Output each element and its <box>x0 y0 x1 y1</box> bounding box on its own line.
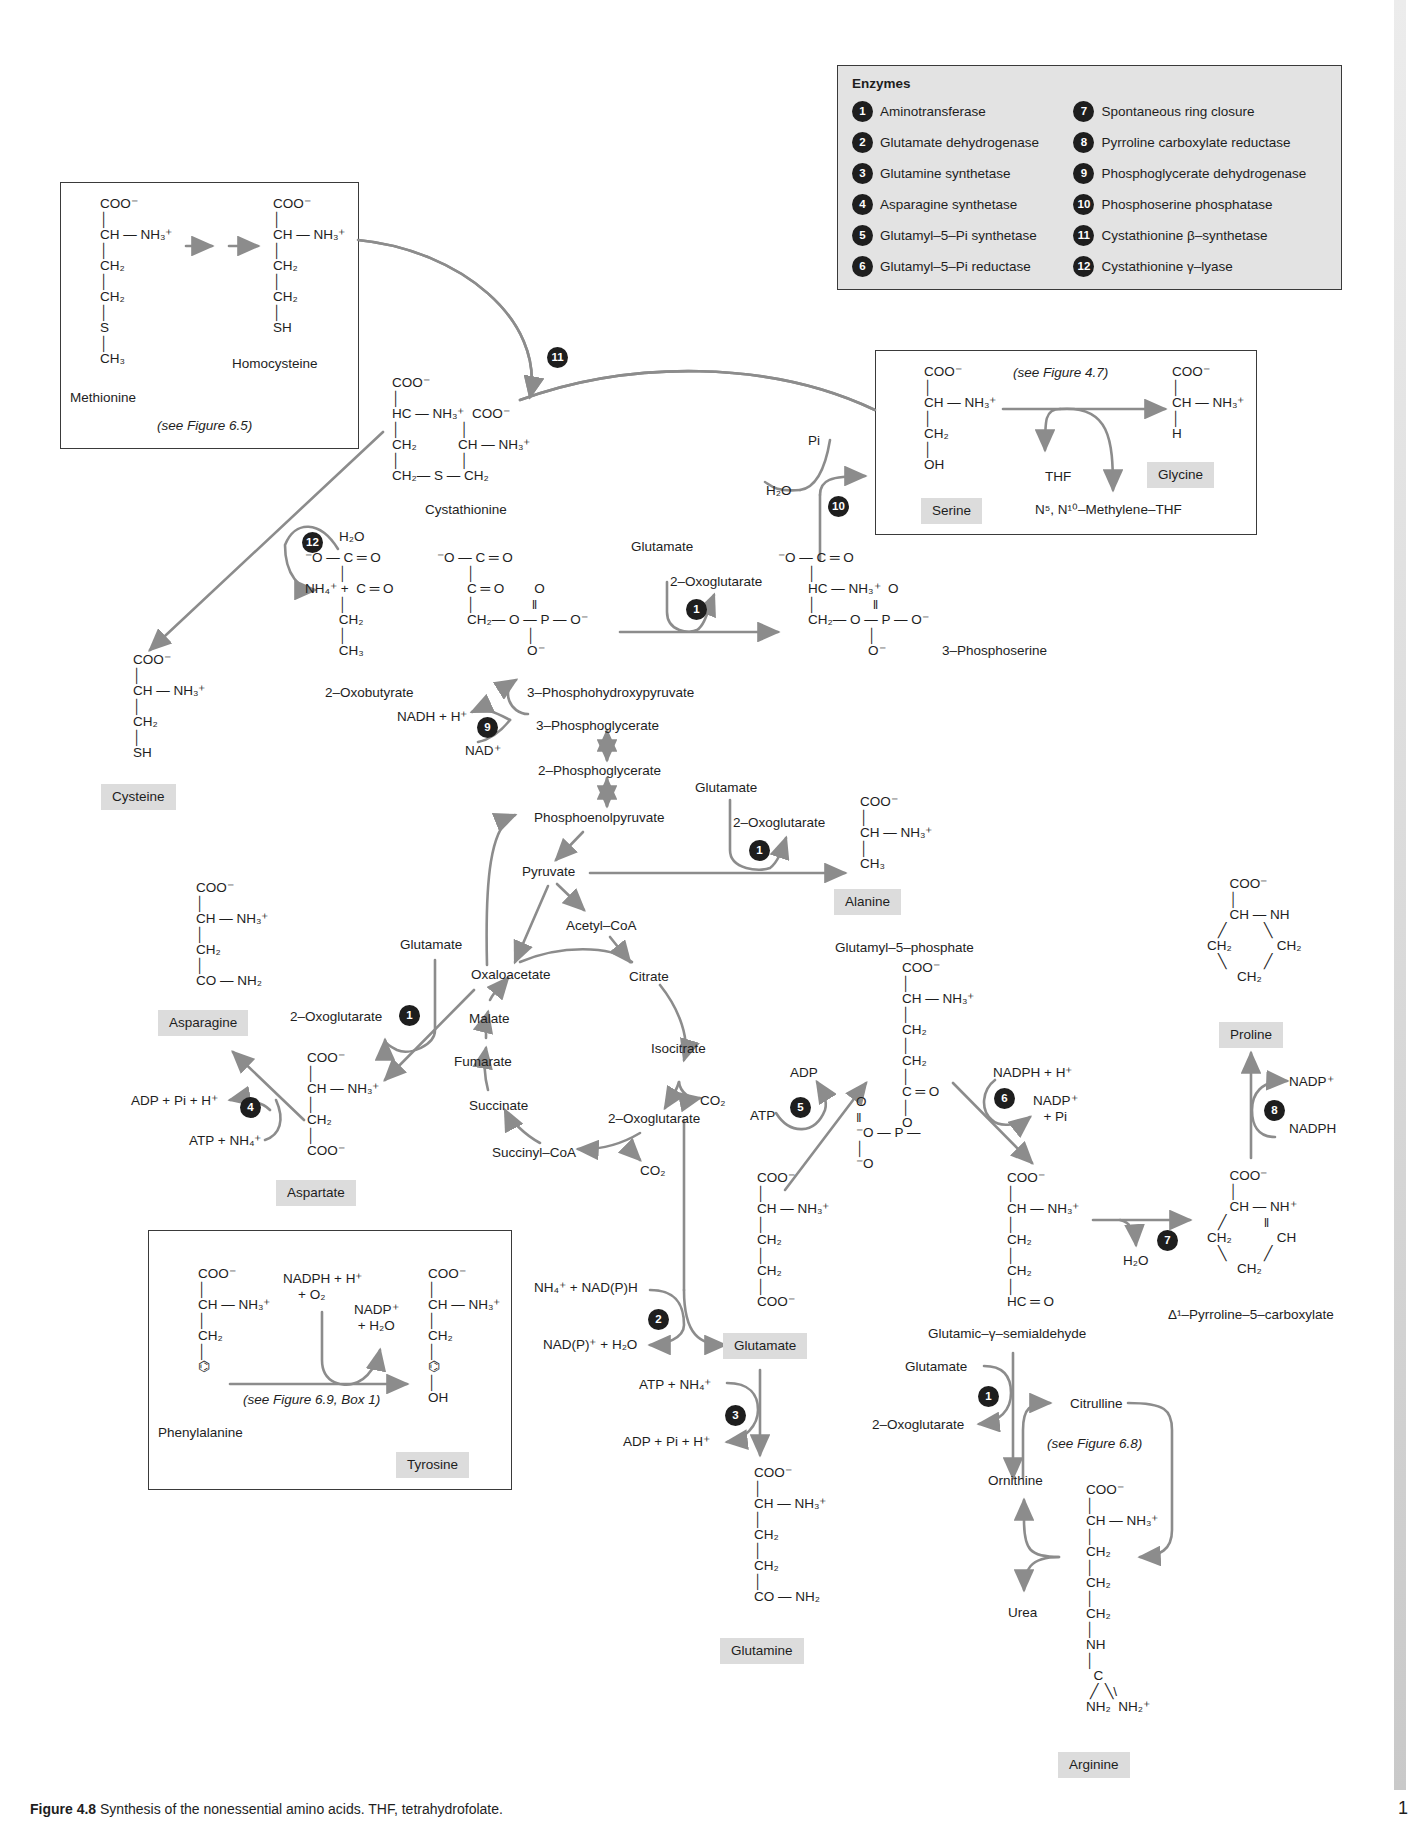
succinate-label: Succinate <box>469 1098 528 1114</box>
enzyme-number-badge: 6 <box>852 256 873 277</box>
enzyme-number-badge: 12 <box>1073 256 1094 277</box>
adp-label-5: ADP <box>790 1065 818 1081</box>
legend-item: 7Spontaneous ring closure <box>1073 96 1327 127</box>
aspartate-structure: COO⁻ │ CH — NH₃⁺ │ CH₂ │ COO⁻ <box>307 1050 380 1159</box>
glutamate-label-d: Glutamate <box>905 1359 967 1375</box>
enzyme-number-badge: 4 <box>852 194 873 215</box>
isocitrate-label: Isocitrate <box>651 1041 706 1057</box>
glutamate-label-a: Glutamate <box>631 539 693 555</box>
phosphohydroxypyruvate-label: 3–Phosphohydroxypyruvate <box>527 685 694 701</box>
nadp-h2o-tyr-label: NADP⁺ + H₂O <box>354 1302 399 1334</box>
homocysteine-label: Homocysteine <box>232 356 318 372</box>
legend-item-label: Cystathionine γ–lyase <box>1101 259 1232 274</box>
nadh-label: NADH + H⁺ <box>397 709 467 725</box>
adp-pi-h-label-3: ADP + Pi + H⁺ <box>623 1434 710 1450</box>
see-figure-47: (see Figure 4.7) <box>1013 365 1108 381</box>
p5c-label: Δ¹–Pyrroline–5–carboxylate <box>1168 1307 1334 1323</box>
legend-item: 2Glutamate dehydrogenase <box>852 127 1071 158</box>
legend-item: 1Aminotransferase <box>852 96 1071 127</box>
page-edge-bar <box>1394 0 1406 1790</box>
legend-item-label: Cystathionine β–synthetase <box>1101 228 1267 243</box>
arginine-structure: COO⁻ │ CH — NH₃⁺ │ CH₂ │ CH₂ │ CH₂ │ NH … <box>1086 1482 1159 1715</box>
enzyme-badge-9: 9 <box>477 717 498 738</box>
glutamyl5p-label: Glutamyl–5–phosphate <box>835 940 974 956</box>
tyrosine-structure: COO⁻ │ CH — NH₃⁺ │ CH₂ │ ⌬ │ OH <box>428 1266 501 1406</box>
see-figure-68: (see Figure 6.8) <box>1047 1436 1142 1452</box>
legend-item-label: Glutamyl–5–Pi reductase <box>880 259 1031 274</box>
glutamate-amino-acid-label: Glutamate <box>723 1333 807 1359</box>
enzyme-legend: Enzymes 1Aminotransferase 2Glutamate deh… <box>837 65 1342 290</box>
phosphoglycerate2-label: 2–Phosphoglycerate <box>538 763 661 779</box>
enzyme-badge-3: 3 <box>725 1405 746 1426</box>
citrulline-label: Citrulline <box>1070 1396 1123 1412</box>
enzyme-number-badge: 5 <box>852 225 873 246</box>
legend-item-label: Glutamate dehydrogenase <box>880 135 1039 150</box>
pep-label: Phosphoenolpyruvate <box>534 810 665 826</box>
legend-item: 11Cystathionine β–synthetase <box>1073 220 1327 251</box>
enzyme-badge-1: 1 <box>686 599 707 620</box>
enzyme-number-badge: 3 <box>852 163 873 184</box>
semialdehyde-structure: COO⁻ │ CH — NH₃⁺ │ CH₂ │ CH₂ │ HC ═ O <box>1007 1170 1080 1310</box>
fumarate-label: Fumarate <box>454 1054 512 1070</box>
succinylcoa-label: Succinyl–CoA <box>492 1145 576 1161</box>
see-figure-69: (see Figure 6.9, Box 1) <box>243 1392 380 1408</box>
glutamyl5p-phosphate-structure: O ‖ ⁻O — P — │ ⁻O <box>856 1094 921 1172</box>
h2o-label-10: H₂O <box>766 483 792 499</box>
methionine-label: Methionine <box>70 390 136 406</box>
pi-label: Pi <box>808 433 820 449</box>
adp-pi-h-label-4: ADP + Pi + H⁺ <box>131 1093 218 1109</box>
co2-label-a: CO₂ <box>700 1093 726 1109</box>
oxoglutarate-label-a: 2–Oxoglutarate <box>670 574 762 590</box>
enzyme-number-badge: 7 <box>1073 101 1094 122</box>
enzyme-badge-11: 11 <box>547 347 568 368</box>
oxoglutarate-tca-label: 2–Oxoglutarate <box>608 1111 700 1127</box>
figure-number: Figure 4.8 <box>30 1801 96 1817</box>
legend-item-label: Aminotransferase <box>880 104 986 119</box>
arginine-amino-acid-label: Arginine <box>1058 1752 1130 1778</box>
nadp-h2o-label-2: NAD(P)⁺ + H₂O <box>543 1337 637 1353</box>
legend-item-label: Phosphoserine phosphatase <box>1101 197 1272 212</box>
methionine-structure: COO⁻ │ CH — NH₃⁺ │ CH₂ │ CH₂ │ S │ CH₃ <box>100 196 173 367</box>
legend-item-label: Phosphoglycerate dehydrogenase <box>1101 166 1306 181</box>
enzyme-badge-5: 5 <box>790 1097 811 1118</box>
phenylalanine-structure: COO⁻ │ CH — NH₃⁺ │ CH₂ │ ⌬ <box>198 1266 271 1375</box>
oxobutyrate-structure: ⁻O — C ═ O │ NH₄⁺ + C ═ O │ CH₂ │ CH₃ <box>305 550 393 659</box>
phosphoglycerate3-label: 3–Phosphoglycerate <box>536 718 659 734</box>
serine-amino-acid-label: Serine <box>921 498 982 524</box>
cysteine-structure: COO⁻ │ CH — NH₃⁺ │ CH₂ │ SH <box>133 652 206 761</box>
oxoglutarate-label-c: 2–Oxoglutarate <box>290 1009 382 1025</box>
legend-item-label: Asparagine synthetase <box>880 197 1017 212</box>
asparagine-structure: COO⁻ │ CH — NH₃⁺ │ CH₂ │ CO — NH₂ <box>196 880 269 989</box>
methylene-thf-label: N⁵, N¹⁰–Methylene–THF <box>1035 502 1182 518</box>
oxoglutarate-label-b: 2–Oxoglutarate <box>733 815 825 831</box>
legend-item: 10Phosphoserine phosphatase <box>1073 189 1327 220</box>
legend-item-label: Spontaneous ring closure <box>1101 104 1254 119</box>
glutamate-structure: COO⁻ │ CH — NH₃⁺ │ CH₂ │ CH₂ │ COO⁻ <box>757 1170 830 1310</box>
atp-label-5: ATP <box>750 1108 775 1124</box>
enzyme-badge-4: 4 <box>240 1097 261 1118</box>
asparagine-amino-acid-label: Asparagine <box>158 1010 248 1036</box>
proline-structure: COO⁻ │ CH — NH ╱ ╲ CH₂ CH₂ ╲ ╱ CH₂ <box>1207 876 1302 985</box>
tyrosine-amino-acid-label: Tyrosine <box>396 1452 469 1478</box>
enzyme-badge-10: 10 <box>828 496 849 517</box>
legend-item: 8Pyrroline carboxylate reductase <box>1073 127 1327 158</box>
glutamine-structure: COO⁻ │ CH — NH₃⁺ │ CH₂ │ CH₂ │ CO — NH₂ <box>754 1465 827 1605</box>
oxoglutarate-label-d: 2–Oxoglutarate <box>872 1417 964 1433</box>
enzyme-badge-8: 8 <box>1264 1100 1285 1121</box>
glutamate-label-b: Glutamate <box>695 780 757 796</box>
ornithine-label: Ornithine <box>988 1473 1043 1489</box>
legend-item: 5Glutamyl–5–Pi synthetase <box>852 220 1071 251</box>
p5c-structure: COO⁻ │ CH — NH⁺ ╱ ‖ CH₂ CH ╲ ╱ CH₂ <box>1207 1168 1297 1277</box>
enzyme-number-badge: 9 <box>1073 163 1094 184</box>
glutamine-amino-acid-label: Glutamine <box>720 1638 804 1664</box>
h2o-label-12: H₂O <box>339 529 365 545</box>
serine-structure: COO⁻ │ CH — NH₃⁺ │ CH₂ │ OH <box>924 364 997 473</box>
nadph-o2-label: NADPH + H⁺ + O₂ <box>283 1271 362 1303</box>
atp-nh4-label-4: ATP + NH₄⁺ <box>189 1133 261 1149</box>
phosphoserine-structure: ⁻O — C ═ O │ HC — NH₃⁺ O │ ‖ CH₂— O — P … <box>778 550 929 659</box>
legend-item-label: Glutamyl–5–Pi synthetase <box>880 228 1037 243</box>
legend-item: 9Phosphoglycerate dehydrogenase <box>1073 158 1327 189</box>
enzyme-badge-1: 1 <box>749 840 770 861</box>
nadp-pi-label-6: NADP⁺ + Pi <box>1033 1093 1078 1125</box>
enzyme-number-badge: 8 <box>1073 132 1094 153</box>
